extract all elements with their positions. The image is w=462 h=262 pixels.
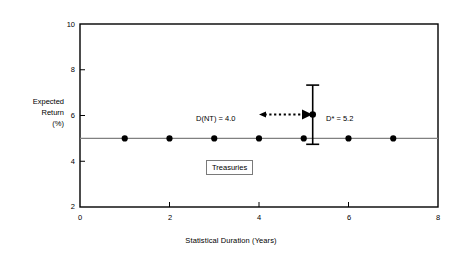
data-point — [211, 135, 217, 141]
y-axis-ticks — [80, 70, 85, 162]
data-point — [301, 135, 307, 141]
plot-canvas — [0, 0, 462, 262]
data-point — [390, 135, 396, 141]
x-axis-ticks — [170, 202, 349, 207]
chart-figure: Expected Return (%) 10 8 6 4 2 0 2 4 6 8… — [0, 0, 462, 262]
data-point — [345, 135, 351, 141]
data-point — [256, 135, 262, 141]
plot-frame — [80, 24, 438, 207]
data-point — [166, 135, 172, 141]
data-point — [122, 135, 128, 141]
data-point-optimal — [309, 111, 316, 118]
arrowhead-left-icon — [259, 112, 266, 118]
